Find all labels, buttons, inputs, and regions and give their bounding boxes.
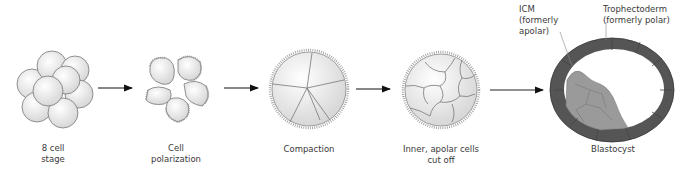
stage-label-compaction: Compaction	[278, 144, 340, 155]
stage-label-inner-cutoff: Inner, apolar cells cut off	[393, 144, 489, 166]
icm-callout-line2: (formerly	[519, 15, 558, 26]
trophectoderm-callout: Trophectoderm (formerly polar)	[603, 4, 670, 26]
stage-label-8-cell: 8 cell stage	[28, 143, 78, 165]
stage-label-blastocyst: Blastocyst	[585, 144, 641, 155]
icm-callout-line3: apolar)	[519, 26, 558, 37]
cell-polarization-illustration	[146, 56, 208, 122]
stage-label-polarization: Cell polarization	[145, 143, 207, 165]
icm-callout-line1: ICM	[519, 4, 558, 15]
blastocyst-illustration	[550, 22, 674, 142]
icm-callout: ICM (formerly apolar)	[519, 4, 558, 37]
trophectoderm-callout-line2: (formerly polar)	[603, 15, 670, 26]
inner-apolar-cells-illustration	[403, 52, 479, 128]
compaction-illustration	[270, 50, 348, 128]
eight-cell-stage-illustration	[17, 51, 93, 128]
trophectoderm-callout-line1: Trophectoderm	[603, 4, 670, 15]
